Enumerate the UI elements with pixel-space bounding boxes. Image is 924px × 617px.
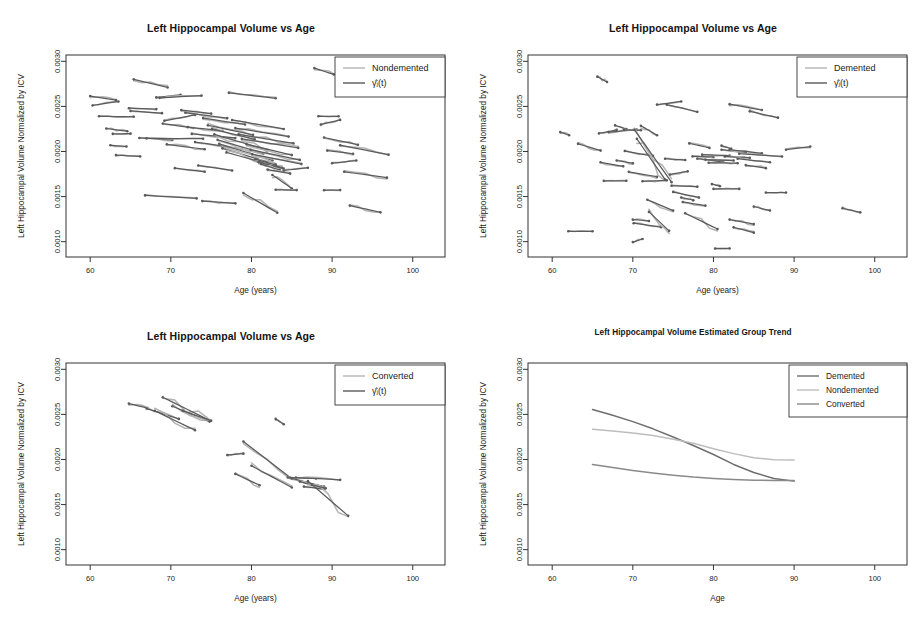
observation-point — [632, 162, 635, 165]
observation-point — [194, 141, 197, 144]
observation-point — [736, 162, 739, 165]
observation-point — [720, 144, 723, 147]
observation-point — [704, 158, 707, 161]
x-tick-label: 100 — [868, 574, 881, 583]
observation-point — [216, 138, 219, 141]
observation-point — [200, 94, 203, 97]
observation-point — [260, 163, 263, 166]
x-tick-label: 80 — [247, 266, 255, 275]
legend-label: γ̂ⱼ(t) — [372, 386, 387, 396]
x-tick-label: 100 — [406, 574, 419, 583]
observation-point — [287, 135, 290, 138]
observation-point — [197, 164, 200, 167]
observation-point — [105, 127, 108, 130]
observation-point — [603, 180, 606, 183]
observation-point — [307, 166, 310, 169]
observation-point — [228, 92, 231, 95]
y-tick-label: 0.0010 — [515, 538, 524, 561]
y-tick-label: 0.0015 — [53, 493, 62, 516]
observation-point — [251, 153, 254, 156]
observation-point — [686, 170, 689, 173]
observation-point — [692, 199, 695, 202]
fitted-trajectory — [276, 419, 284, 424]
observation-point — [202, 137, 205, 140]
observation-point — [174, 167, 177, 170]
observation-point — [684, 212, 687, 215]
observation-point — [646, 198, 649, 201]
observation-point — [640, 124, 643, 127]
observation-point — [641, 180, 644, 183]
observation-point — [632, 241, 635, 244]
observation-point — [596, 75, 599, 78]
x-tick-label: 90 — [790, 266, 798, 275]
y-axis-label: Left Hippocampal Volume Normalized by IC… — [479, 74, 488, 238]
observation-point — [809, 145, 812, 148]
observation-point — [129, 132, 132, 135]
observation-point — [138, 137, 141, 140]
trend-layer — [593, 409, 795, 481]
observation-point — [153, 409, 156, 412]
fitted-trajectory — [134, 79, 168, 87]
observation-point — [680, 196, 683, 199]
observation-point — [139, 155, 142, 158]
observation-point — [633, 129, 636, 132]
observation-point — [180, 109, 183, 112]
observation-point — [761, 109, 764, 112]
observation-point — [128, 402, 131, 405]
legend-label: γ̂ⱼ(t) — [834, 78, 849, 88]
x-tick-label: 90 — [328, 574, 336, 583]
observation-point — [234, 473, 237, 476]
fitted-trajectory — [673, 192, 699, 197]
observation-point — [290, 486, 293, 489]
y-tick-label: 0.0030 — [515, 50, 524, 73]
legend-label: Demented — [826, 371, 865, 381]
x-tick-label: 60 — [86, 266, 94, 275]
y-tick-label: 0.0010 — [515, 230, 524, 253]
observation-point — [210, 419, 213, 422]
observation-point — [186, 126, 189, 129]
observation-point — [91, 104, 94, 107]
observation-point — [704, 204, 707, 207]
observation-point — [386, 176, 389, 179]
y-tick-label: 0.0010 — [53, 538, 62, 561]
observation-point — [349, 204, 352, 207]
observation-point — [664, 157, 667, 160]
observation-point — [623, 150, 626, 153]
observation-point — [282, 169, 285, 172]
fitted-trajectory — [634, 223, 661, 227]
observation-point — [161, 122, 164, 125]
observation-point — [769, 161, 772, 164]
y-tick-label: 0.0020 — [515, 448, 524, 471]
x-axis-label: Age (years) — [234, 286, 277, 295]
observation-point — [237, 133, 240, 136]
observation-point — [313, 67, 316, 70]
observation-point — [299, 480, 302, 483]
observation-point — [701, 153, 704, 156]
observation-point — [682, 201, 685, 204]
observation-point — [299, 159, 302, 162]
observation-point — [207, 124, 210, 127]
observation-point — [641, 238, 644, 241]
observation-point — [274, 97, 277, 100]
observation-point — [632, 222, 635, 225]
fitted-trajectory — [667, 105, 698, 112]
observation-point — [274, 418, 277, 421]
observation-point — [669, 173, 672, 176]
fitted-trajectory — [615, 125, 626, 129]
plot-nondemented: 607080901000.00100.00150.00200.00250.003… — [0, 0, 462, 308]
observation-point — [242, 192, 245, 195]
raw-trajectory — [229, 92, 276, 98]
fitted-trajectory — [314, 68, 333, 74]
observation-point — [752, 231, 755, 234]
observation-point — [171, 405, 174, 408]
trend-curve — [593, 429, 795, 460]
observation-point — [656, 103, 659, 106]
observation-point — [225, 151, 228, 154]
fitted-trajectory — [164, 115, 195, 121]
observation-point — [339, 478, 342, 481]
observation-point — [289, 172, 292, 175]
raw-trajectory — [164, 113, 195, 120]
observation-point — [680, 100, 683, 103]
observation-point — [115, 99, 118, 102]
observation-point — [732, 159, 735, 162]
